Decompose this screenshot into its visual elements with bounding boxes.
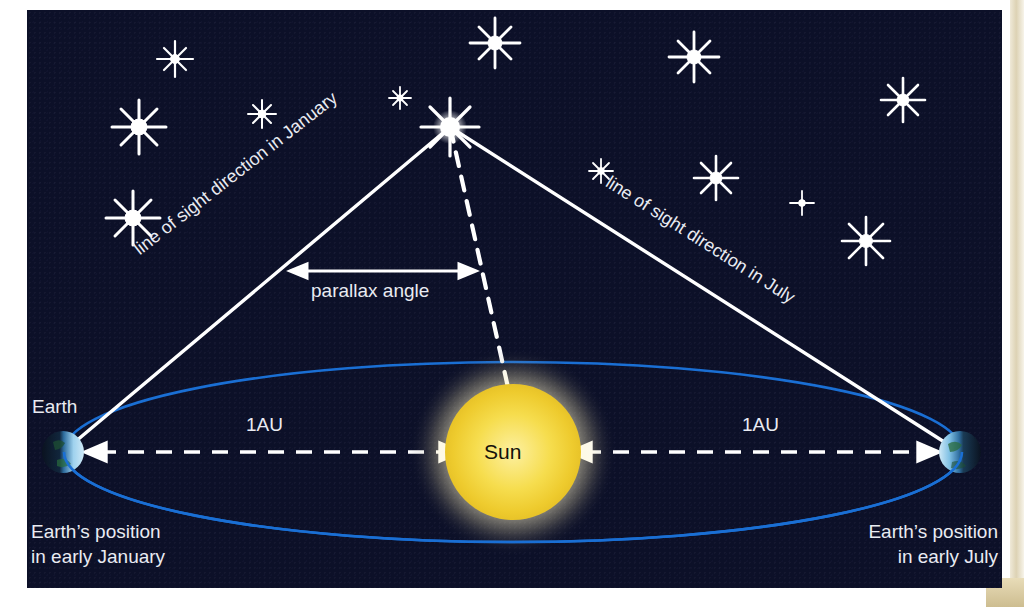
parallax-angle-label: parallax angle: [311, 280, 429, 302]
sky-panel: Earth Sun 1AU 1AU parallax angle line of…: [27, 10, 1002, 588]
au-measure-right: [570, 443, 939, 461]
au-label-left: 1AU: [246, 414, 283, 436]
star: [881, 78, 925, 122]
earth-position-january-line1: Earth’s position: [31, 521, 161, 543]
figure-stage: Earth Sun 1AU 1AU parallax angle line of…: [0, 0, 1024, 607]
background-star-field: [106, 18, 925, 265]
star: [157, 41, 193, 77]
diagram-svg: [27, 10, 1002, 588]
star: [389, 87, 411, 109]
page-edge-strip: [1010, 0, 1024, 607]
star: [248, 100, 276, 128]
target-star: [421, 98, 479, 156]
star: [470, 18, 520, 68]
au-measure-left: [85, 443, 461, 461]
au-label-right: 1AU: [742, 414, 779, 436]
earth-position-july-line2: in early July: [898, 546, 998, 568]
earth-july: [939, 431, 981, 473]
earth-position-july-line1: Earth’s position: [868, 521, 998, 543]
parallax-angle-arrow: [290, 264, 476, 278]
earth-label: Earth: [32, 396, 77, 418]
star: [842, 217, 890, 265]
earth-position-january-line2: in early January: [31, 546, 165, 568]
star: [112, 100, 166, 154]
star: [790, 191, 814, 215]
star: [694, 156, 738, 200]
star: [669, 32, 719, 82]
sun-label: Sun: [484, 440, 521, 464]
